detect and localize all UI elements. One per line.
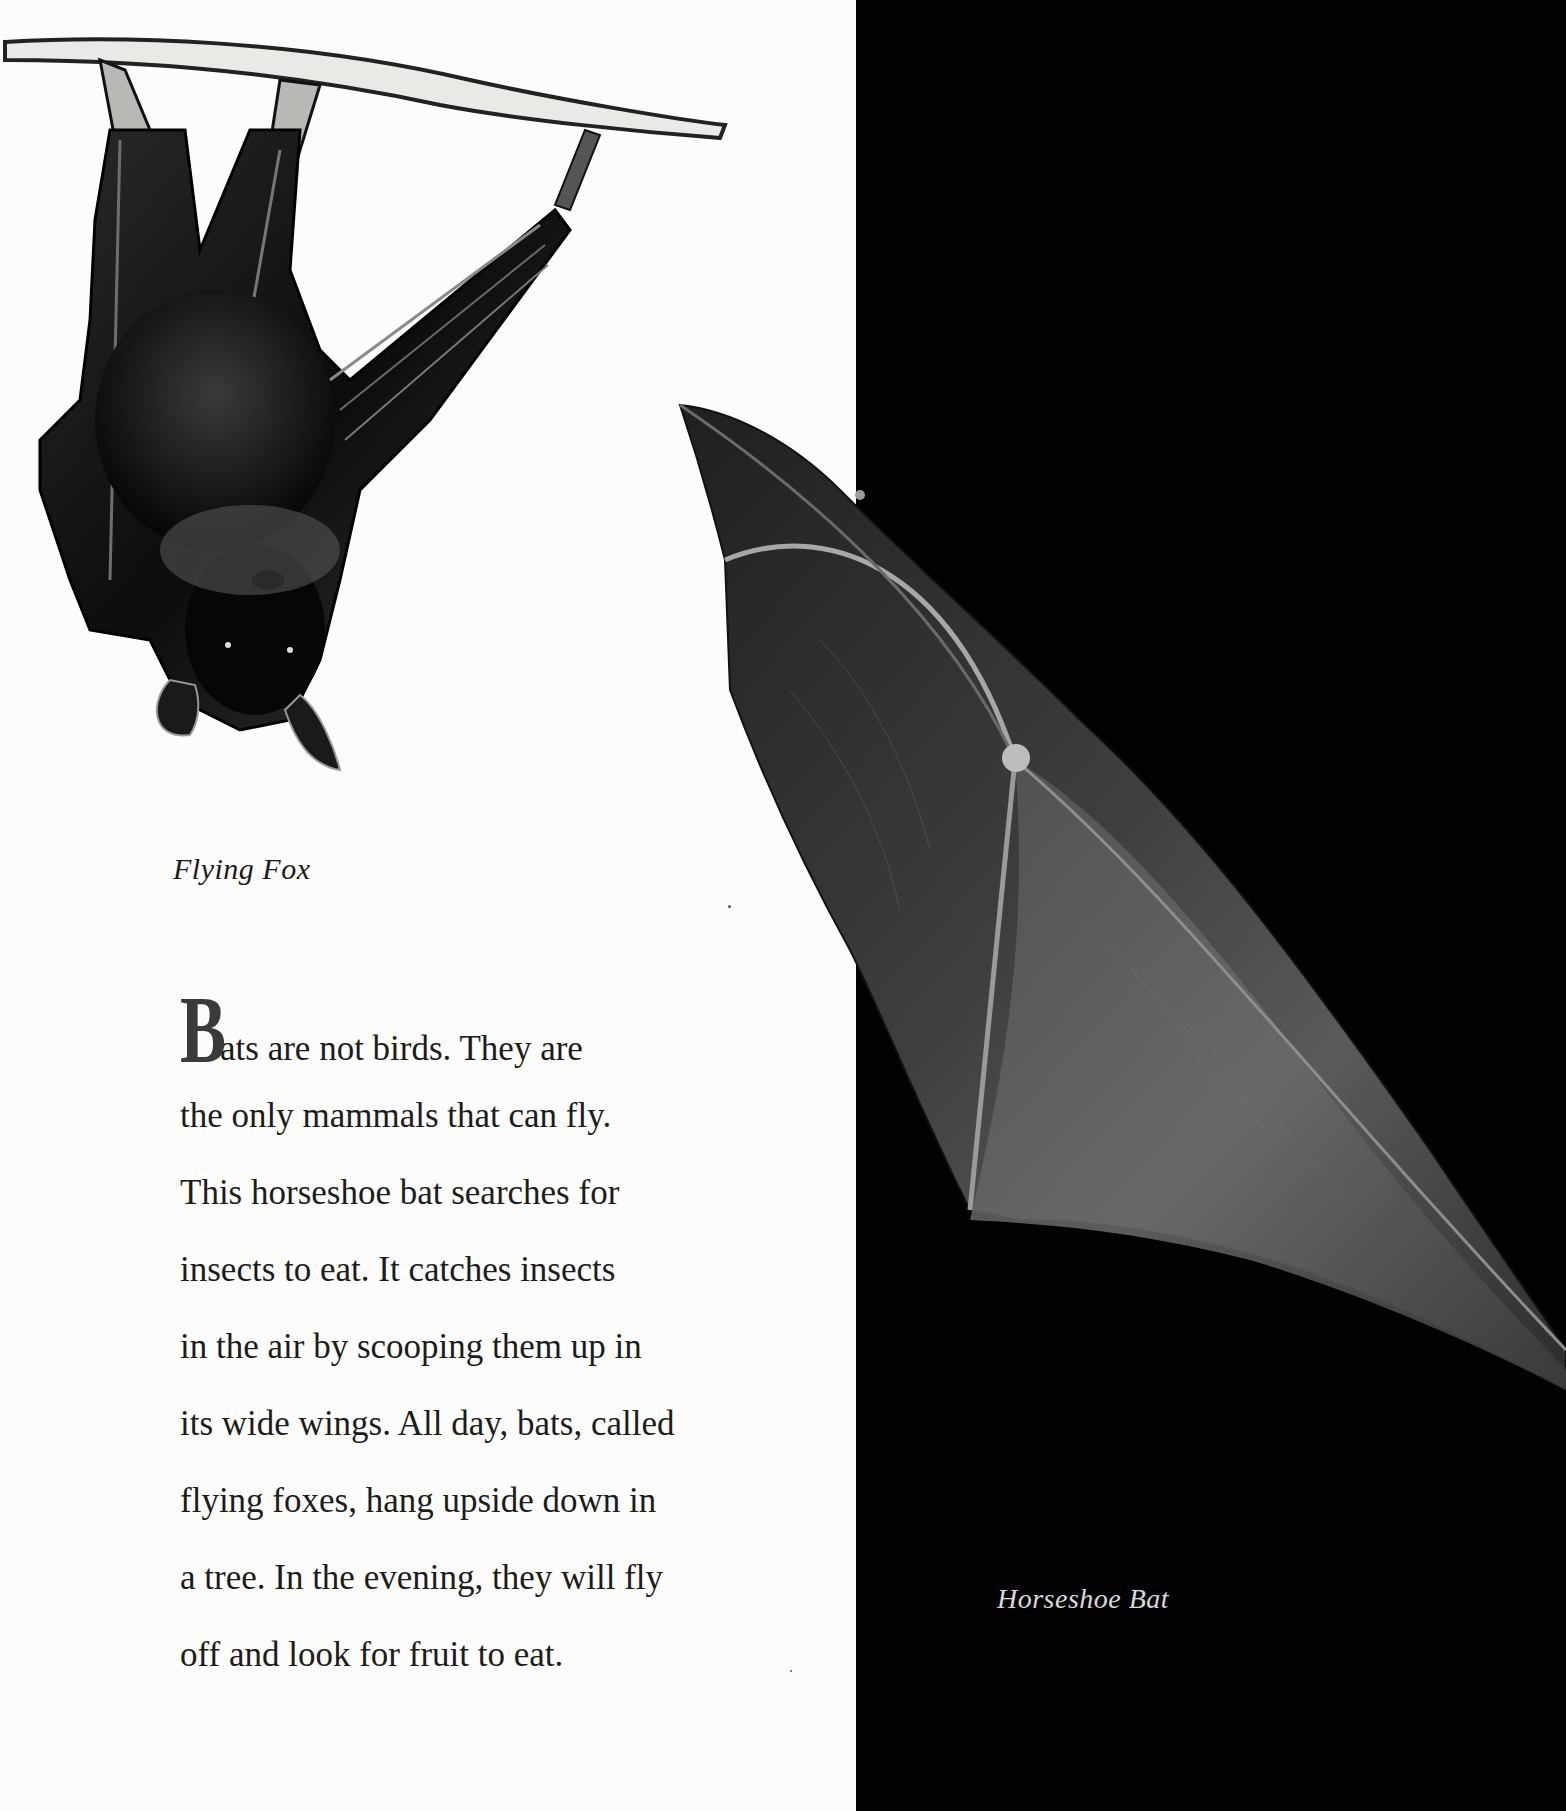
caption-flying-fox: Flying Fox bbox=[173, 852, 310, 886]
body-line-3: This horseshoe bat searches for bbox=[180, 1154, 780, 1231]
body-line-7: flying foxes, hang upside down in bbox=[180, 1462, 780, 1539]
body-line-5: in the air by scooping them up in bbox=[180, 1308, 780, 1385]
body-line-6: its wide wings. All day, bats, called bbox=[180, 1385, 780, 1462]
drop-cap: B bbox=[180, 1000, 225, 1060]
body-line-4: insects to eat. It catches insects bbox=[180, 1231, 780, 1308]
body-line-1: Bats are not birds. They are bbox=[180, 1000, 780, 1077]
body-line-2: the only mammals that can fly. bbox=[180, 1077, 780, 1154]
body-line-8: a tree. In the evening, they will fly bbox=[180, 1539, 780, 1616]
body-paragraph: Bats are not birds. They are the only ma… bbox=[180, 1000, 780, 1693]
horseshoe-bat-photo bbox=[670, 390, 1566, 1390]
body-line-9: off and look for fruit to eat. bbox=[180, 1616, 780, 1693]
body-line-text: ats are not birds. They are bbox=[220, 1029, 583, 1068]
print-speck bbox=[728, 905, 731, 908]
flying-fox-photo bbox=[0, 20, 740, 780]
caption-horseshoe-bat: Horseshoe Bat bbox=[997, 1583, 1169, 1615]
print-speck bbox=[790, 1670, 792, 1672]
book-spread: Flying Fox Horseshoe Bat Bats are not bi… bbox=[0, 0, 1566, 1811]
